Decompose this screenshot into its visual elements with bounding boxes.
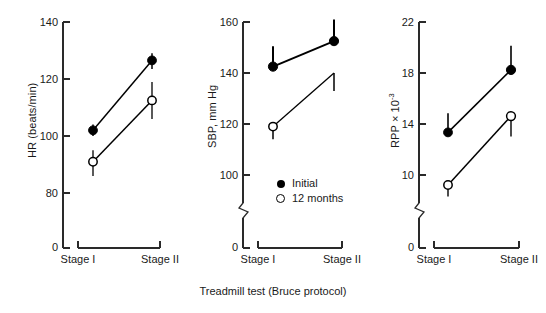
figure-three-panel-exercise-response: HR (beats/min) 140 120 100 80 0 (0, 0, 546, 313)
open-circle-icon (274, 194, 287, 203)
panel-rpp-xtick-stage2: Stage II (490, 254, 546, 265)
legend-item-initial: Initial (274, 176, 343, 191)
x-axis-title: Treadmill test (Bruce protocol) (173, 285, 373, 297)
filled-circle-icon (274, 180, 287, 188)
panel-sbp-xtick-stage1: Stage I (230, 254, 286, 265)
panel-sbp-xtick-stage2: Stage II (313, 254, 371, 265)
legend-label-12-months: 12 months (292, 191, 343, 206)
panel-sbp: SBP, mm Hg 160 140 120 100 0 (182, 0, 367, 313)
panel-hr-plot (0, 0, 182, 313)
legend: Initial 12 months (274, 176, 343, 206)
panel-rpp-plot (367, 0, 546, 313)
panel-rpp-xtick-stage1: Stage I (406, 254, 462, 265)
panel-hr-xtick-stage1: Stage I (50, 254, 106, 265)
legend-item-12-months: 12 months (274, 191, 343, 206)
panel-rpp-axis-break (415, 203, 424, 218)
panel-sbp-axis-break (239, 203, 248, 218)
panel-rpp: RPP × 10-3 22 18 14 10 0 (367, 0, 546, 313)
panel-sbp-plot (182, 0, 367, 313)
legend-label-initial: Initial (292, 176, 318, 191)
panel-hr: HR (beats/min) 140 120 100 80 0 (0, 0, 182, 313)
panel-hr-xtick-stage2: Stage II (131, 254, 189, 265)
